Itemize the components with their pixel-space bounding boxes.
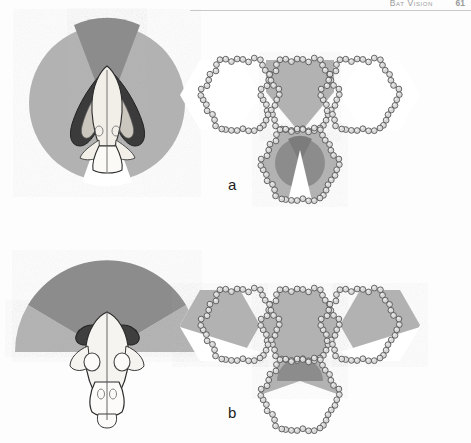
cell-bubble (257, 125, 263, 131)
cell-bubble (339, 126, 345, 132)
cell-bubble (354, 286, 360, 292)
cell-bubble (273, 423, 279, 429)
cell-bubble (251, 285, 257, 291)
cell-bubble (240, 287, 246, 293)
cell-bubble (300, 357, 306, 363)
cell-bubble (219, 356, 225, 362)
panel-label-a: a (228, 176, 237, 193)
cell-bubble (219, 126, 225, 132)
cell-bubble (213, 353, 219, 359)
cell-bubble (251, 55, 257, 61)
cell-bubble (276, 316, 282, 322)
cell-bubble (349, 357, 355, 363)
cell-bubble (229, 357, 235, 363)
cell-bubble (270, 411, 276, 417)
cell-bubble (349, 59, 355, 65)
cell-bubble (229, 289, 235, 295)
cell-bubble (258, 386, 264, 392)
cell-bubble (258, 316, 264, 322)
cell-bubble (378, 57, 384, 63)
cell-bubble (251, 128, 257, 134)
cell-bubble (330, 341, 336, 347)
cell-bubble (337, 287, 343, 293)
cell-bubble (234, 56, 240, 62)
cell-bubble (198, 86, 204, 92)
cell-bubble (213, 123, 219, 129)
cell-bubble (267, 72, 273, 78)
cell-bubble (229, 127, 235, 133)
cell-bubble (325, 412, 331, 418)
cell-bubble (272, 417, 278, 423)
cell-bubble (336, 156, 342, 162)
cell-bubble (326, 307, 332, 313)
cell-bubble (267, 371, 273, 377)
cell-bubble (327, 71, 333, 77)
cell-bubble (324, 313, 330, 319)
cell-bubble (330, 111, 336, 117)
cell-bubble (258, 93, 264, 99)
cell-bubble (306, 59, 312, 65)
cell-bubble (264, 153, 270, 159)
cell-bubble (377, 125, 383, 131)
cell-bubble (234, 128, 240, 134)
cell-bubble (324, 338, 330, 344)
cell-bubble (289, 359, 295, 365)
cell-bubble (294, 356, 300, 362)
cell-bubble (331, 153, 337, 159)
cell-bubble (265, 342, 271, 348)
cell-bubble (333, 123, 339, 129)
cell-bubble (251, 358, 257, 364)
cell-bubble (246, 59, 252, 65)
cell-bubble (333, 68, 339, 74)
cell-bubble (354, 56, 360, 62)
cell-bubble (360, 287, 366, 293)
cell-bubble (360, 126, 366, 132)
panel-b-left-diagram (15, 260, 199, 428)
cell-bubble (240, 126, 246, 132)
cell-bubble (326, 77, 332, 83)
cell-bubble (264, 178, 270, 184)
cell-bubble (394, 327, 400, 333)
cell-bubble (212, 347, 218, 353)
cell-bubble (289, 289, 295, 295)
cell-bubble (273, 68, 279, 74)
cell-bubble (267, 141, 273, 147)
cell-bubble (343, 56, 349, 62)
cell-bubble (333, 298, 339, 304)
cell-bubble (204, 313, 210, 319)
cell-bubble (360, 57, 366, 63)
cell-bubble (223, 56, 229, 62)
cell-bubble (271, 313, 277, 319)
cell-bubble (273, 368, 279, 374)
cell-bubble (327, 372, 333, 378)
cell-bubble (325, 182, 331, 188)
cell-bubble (318, 323, 324, 329)
cell-bubble (371, 358, 377, 364)
cell-bubble (318, 127, 324, 133)
cell-bubble (229, 59, 235, 65)
cell-bubble (279, 426, 285, 432)
cell-bubble (289, 197, 295, 203)
cell-bubble (360, 356, 366, 362)
cell-bubble (332, 347, 338, 353)
hex-left-a (180, 60, 260, 130)
cell-bubble (385, 342, 391, 348)
cell-bubble (366, 59, 372, 65)
cell-bubble (213, 298, 219, 304)
cell-bubble (339, 356, 345, 362)
cell-bubble (240, 356, 246, 362)
cell-bubble (378, 287, 384, 293)
cell-bubble (258, 323, 264, 329)
cell-bubble (337, 57, 343, 63)
cell-bubble (246, 128, 252, 134)
panel-a-left-diagram (29, 18, 185, 186)
bat-skull-dorsal-b (70, 312, 144, 428)
cell-bubble (294, 126, 300, 132)
cell-bubble (300, 287, 306, 293)
cell-bubble (234, 286, 240, 292)
cell-bubble (270, 181, 276, 187)
cell-bubble (264, 383, 270, 389)
cell-bubble (273, 138, 279, 144)
cell-bubble (246, 358, 252, 364)
cell-bubble (277, 287, 283, 293)
